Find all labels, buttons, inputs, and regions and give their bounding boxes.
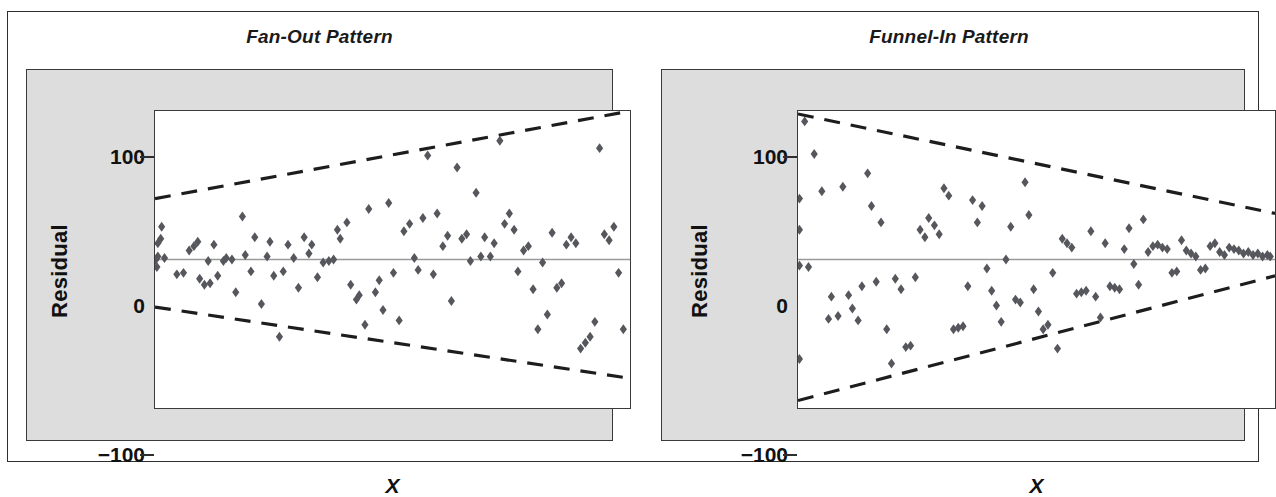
data-point	[855, 315, 862, 325]
data-point	[818, 186, 825, 196]
data-point	[481, 232, 488, 242]
data-point	[845, 290, 852, 300]
data-point	[849, 304, 856, 314]
y-tick-mark-minus100-funnel-in	[783, 454, 797, 456]
data-point	[251, 232, 258, 242]
data-point	[964, 281, 971, 291]
data-point	[798, 194, 803, 204]
data-point	[258, 299, 265, 309]
data-point	[173, 269, 180, 279]
data-point	[1164, 244, 1171, 254]
data-point	[201, 280, 208, 290]
y-tick-mark-100-funnel-in	[783, 156, 797, 158]
data-point	[280, 266, 287, 276]
data-point	[544, 309, 551, 319]
data-point	[276, 332, 283, 342]
scatter-plot-fan-out	[155, 111, 630, 408]
data-point	[270, 271, 277, 281]
data-point	[1202, 263, 1209, 273]
data-point	[406, 219, 413, 229]
data-point	[892, 274, 899, 284]
x-axis-label-fan-out: X	[154, 474, 631, 497]
data-point	[945, 191, 952, 201]
data-point	[376, 275, 383, 285]
data-point	[365, 204, 372, 214]
data-point	[839, 182, 846, 192]
data-point	[1092, 292, 1099, 302]
data-point	[290, 253, 297, 263]
data-point	[1087, 226, 1094, 236]
data-point	[1102, 238, 1109, 248]
data-point	[1030, 284, 1037, 294]
data-point	[334, 225, 341, 235]
y-tick-label-0-funnel-in: 0	[684, 294, 788, 318]
plot-area-fan-out	[154, 110, 631, 409]
data-point	[917, 225, 924, 235]
data-point	[343, 217, 350, 227]
data-point	[1125, 223, 1132, 233]
data-point	[1035, 307, 1042, 317]
data-point	[587, 332, 594, 342]
data-point	[473, 188, 480, 198]
data-point	[936, 229, 943, 239]
data-point	[1025, 210, 1032, 220]
data-point	[180, 268, 187, 278]
y-tick-mark-minus100-fan-out	[140, 454, 154, 456]
data-point	[1130, 259, 1137, 269]
data-point	[411, 253, 418, 263]
data-point	[415, 265, 422, 275]
data-point	[1178, 235, 1185, 245]
data-point	[825, 314, 832, 324]
data-point	[988, 286, 995, 296]
upper-boundary	[155, 111, 630, 199]
data-point	[424, 151, 431, 161]
data-point	[1121, 244, 1128, 254]
data-point	[242, 250, 249, 260]
data-point	[295, 283, 302, 293]
data-point	[1173, 266, 1180, 276]
data-point	[419, 213, 426, 223]
data-point	[974, 217, 981, 227]
data-point	[959, 321, 966, 331]
data-point	[239, 211, 246, 221]
data-point	[439, 241, 446, 251]
data-point	[615, 268, 622, 278]
data-point	[1054, 344, 1061, 354]
x-axis-label-funnel-in: X	[797, 474, 1276, 497]
data-point	[496, 136, 503, 146]
data-point	[400, 226, 407, 236]
data-point	[577, 344, 584, 354]
data-point	[864, 168, 871, 178]
data-point	[337, 234, 344, 244]
data-point	[161, 253, 168, 263]
data-point	[798, 225, 803, 235]
data-point	[1145, 247, 1152, 257]
data-point	[247, 266, 254, 276]
panel-fan-out: Fan-Out Pattern Residual 100 0 −100 X	[8, 12, 631, 461]
data-point	[330, 255, 337, 265]
y-tick-label-100-fan-out: 100	[41, 145, 145, 169]
data-point	[534, 324, 541, 334]
data-point	[925, 213, 932, 223]
data-point	[610, 222, 617, 232]
data-point	[798, 260, 803, 270]
data-point	[511, 225, 518, 235]
plot-frame-fan-out: Residual 100 0 −100 X	[26, 69, 613, 441]
data-point	[798, 354, 803, 364]
data-point	[210, 240, 217, 250]
data-point	[214, 271, 221, 281]
data-point	[448, 296, 455, 306]
panel-funnel-in: Funnel-In Pattern Residual 100 0 −100 X	[638, 12, 1260, 461]
data-point	[1135, 280, 1142, 290]
data-point	[491, 238, 498, 248]
lower-boundary	[798, 276, 1275, 401]
data-point	[501, 219, 508, 229]
panel-title-fan-out: Fan-Out Pattern	[8, 26, 631, 48]
data-point	[591, 317, 598, 327]
data-point	[979, 201, 986, 211]
data-point	[434, 208, 441, 218]
plot-area-funnel-in	[797, 110, 1276, 409]
data-point	[1021, 177, 1028, 187]
data-point	[1049, 268, 1056, 278]
data-point	[232, 287, 239, 297]
